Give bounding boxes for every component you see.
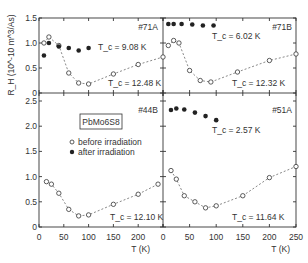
x-tick-label: 0: [37, 232, 42, 242]
data-point-before: [294, 52, 298, 56]
y-tick-label: 0.5: [25, 197, 37, 207]
data-point-after: [214, 118, 219, 123]
data-point-before: [49, 182, 53, 186]
data-point-before: [156, 182, 160, 186]
data-point-after: [179, 22, 184, 27]
data-point-after: [47, 41, 52, 46]
data-point-before: [174, 177, 178, 181]
y-tick-label: 1.5: [25, 13, 37, 23]
data-point-after: [203, 114, 208, 119]
panel-label-44B: #44B: [138, 105, 158, 115]
data-point-after: [57, 44, 62, 49]
data-point-after: [169, 108, 174, 113]
legend-marker-before: [70, 140, 74, 144]
x-tick-label: 100: [209, 232, 223, 242]
x-tick-label: 100: [82, 232, 96, 242]
x-tick-label: 250: [289, 232, 303, 242]
data-point-before: [42, 41, 46, 45]
data-point-before: [44, 179, 48, 183]
y-tick-label: 0: [32, 222, 37, 232]
tc-before-71B: T_c = 12.32 K: [232, 78, 285, 88]
chart-figure: 00.51.01.500.51.01.52.02.505010015020005…: [0, 0, 308, 263]
data-point-before: [57, 191, 61, 195]
y-tick-label: 1.0: [25, 38, 37, 48]
data-point-before: [235, 70, 239, 74]
data-point-before: [171, 38, 175, 42]
x-tick-label: 150: [106, 232, 120, 242]
y-tick-label: 2.0: [25, 121, 37, 131]
data-point-before: [294, 164, 298, 168]
data-point-after: [190, 22, 195, 27]
data-point-before: [193, 200, 197, 204]
data-point-before: [241, 194, 245, 198]
tc-before-44B: T_c = 12.10 K: [110, 212, 163, 222]
data-point-before: [76, 214, 80, 218]
data-point-before: [76, 81, 80, 85]
data-point-after: [171, 22, 176, 27]
data-point-before: [166, 43, 170, 47]
data-point-before: [203, 206, 207, 210]
data-point-after: [42, 53, 47, 58]
fit-curve: [46, 182, 158, 216]
data-point-after: [166, 22, 171, 27]
legend-marker-after: [70, 150, 74, 154]
y-tick-label: 1.5: [25, 146, 37, 156]
panel-label-71B: #71B: [272, 22, 292, 32]
data-point-before: [267, 58, 271, 62]
x-tick-label: 0: [161, 232, 166, 242]
panel-label-71A: #71A: [138, 22, 158, 32]
data-point-before: [111, 202, 115, 206]
x-axis-label: T (K): [271, 244, 290, 254]
tc-after-71B: T_c = 6.02 K: [212, 31, 261, 41]
data-point-before: [111, 72, 115, 76]
data-point-before: [267, 175, 271, 179]
panel-label-51A: #51A: [272, 105, 292, 115]
data-point-before: [182, 194, 186, 198]
data-point-before: [67, 71, 71, 75]
data-point-before: [86, 213, 90, 217]
data-point-before: [136, 62, 140, 66]
fit-curve: [171, 167, 296, 208]
data-point-before: [169, 168, 173, 172]
tc-before-51A: T_c = 11.64 K: [232, 212, 285, 222]
data-point-before: [187, 68, 191, 72]
x-axis-label: T (K): [131, 244, 150, 254]
data-point-after: [174, 106, 179, 111]
y-axis-label: R_H (10^-10 m^3/As): [6, 14, 16, 95]
data-point-before: [47, 35, 51, 39]
data-point-before: [209, 80, 213, 84]
data-point-after: [182, 107, 187, 112]
data-point-after: [86, 46, 91, 51]
y-tick-label: 0.5: [25, 63, 37, 73]
data-point-before: [86, 82, 90, 86]
legend-before: before irradiation: [78, 137, 142, 147]
x-tick-label: 50: [185, 232, 195, 242]
tc-after-51A: T_c = 2.57 K: [212, 125, 261, 135]
data-point-before: [198, 78, 202, 82]
x-tick-label: 150: [236, 232, 250, 242]
y-tick-label: 2.5: [25, 96, 37, 106]
y-tick-label: 1.0: [25, 172, 37, 182]
data-point-before: [67, 207, 71, 211]
data-point-before: [161, 55, 165, 59]
tc-before-71A: T_c = 12.48 K: [108, 78, 161, 88]
data-point-after: [211, 23, 216, 28]
x-tick-label: 200: [131, 232, 145, 242]
material-label: PbMo6S8: [82, 117, 120, 127]
data-point-after: [66, 46, 71, 51]
data-point-after: [76, 48, 81, 53]
fit-curve: [168, 41, 296, 83]
x-tick-label: 50: [59, 232, 69, 242]
data-point-after: [193, 110, 198, 115]
data-point-before: [177, 41, 181, 45]
tc-after-71A: T_c = 9.08 K: [98, 42, 147, 52]
data-point-after: [201, 23, 206, 28]
x-tick-label: 200: [262, 232, 276, 242]
legend-after: after irradiation: [78, 147, 135, 157]
data-point-before: [136, 192, 140, 196]
data-point-before: [214, 204, 218, 208]
